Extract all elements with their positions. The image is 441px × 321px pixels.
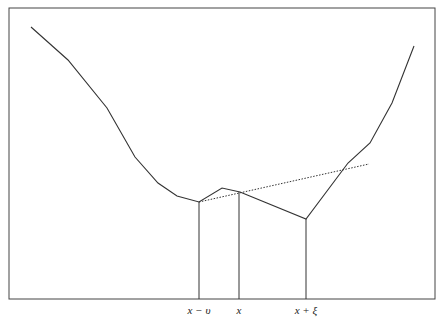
- label-x-plus-xi: x + ξ: [295, 304, 318, 316]
- diagram-canvas: [0, 0, 441, 321]
- secant-dotted-line: [199, 164, 369, 202]
- plot-frame: [9, 8, 435, 299]
- label-x: x: [237, 304, 242, 316]
- function-curve: [31, 27, 414, 219]
- label-x-minus-upsilon: x − υ: [188, 304, 211, 316]
- vertical-markers: [199, 192, 306, 299]
